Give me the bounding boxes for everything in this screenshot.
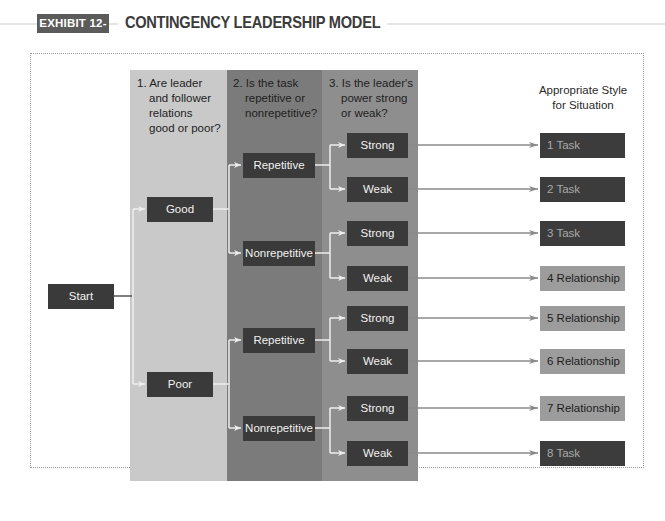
result-5-relationship: 5 Relationship bbox=[540, 306, 625, 331]
result-2-task: 2 Task bbox=[540, 177, 625, 202]
question-line: 2. Is the task bbox=[233, 76, 317, 91]
question-power: 3. Is the leader's power strong or weak? bbox=[329, 76, 413, 121]
node-repetitive: Repetitive bbox=[243, 328, 315, 353]
question-line: nonrepetitive? bbox=[233, 106, 317, 121]
question-line: good or poor? bbox=[137, 121, 221, 136]
question-task: 2. Is the task repetitive or nonrepetiti… bbox=[233, 76, 317, 121]
exhibit-badge: EXHIBIT 12-3 bbox=[37, 14, 109, 33]
result-heading: Appropriate Style for Situation bbox=[528, 83, 638, 113]
result-8-task: 8 Task bbox=[540, 441, 625, 466]
result-heading-line: Appropriate Style bbox=[528, 83, 638, 98]
question-line: and follower bbox=[137, 91, 221, 106]
node-nonrepetitive: Nonrepetitive bbox=[243, 416, 315, 441]
node-good: Good bbox=[147, 197, 213, 222]
node-nonrepetitive: Nonrepetitive bbox=[243, 241, 315, 266]
node-strong: Strong bbox=[347, 396, 408, 421]
result-heading-line: for Situation bbox=[528, 98, 638, 113]
question-relations: 1. Are leader and follower relations goo… bbox=[137, 76, 221, 136]
result-6-relationship: 6 Relationship bbox=[540, 349, 625, 374]
node-strong: Strong bbox=[347, 306, 408, 331]
question-line: power strong bbox=[329, 91, 413, 106]
node-strong: Strong bbox=[347, 221, 408, 246]
page-title: CONTINGENCY LEADERSHIP MODEL bbox=[118, 11, 387, 35]
question-line: 1. Are leader bbox=[137, 76, 221, 91]
node-weak: Weak bbox=[347, 349, 408, 374]
node-poor: Poor bbox=[147, 372, 213, 397]
question-line: relations bbox=[137, 106, 221, 121]
result-3-task: 3 Task bbox=[540, 221, 625, 246]
question-line: 3. Is the leader's bbox=[329, 76, 413, 91]
node-repetitive: Repetitive bbox=[243, 153, 315, 178]
start-node: Start bbox=[48, 284, 114, 309]
result-7-relationship: 7 Relationship bbox=[540, 396, 625, 421]
node-weak: Weak bbox=[347, 177, 408, 202]
result-4-relationship: 4 Relationship bbox=[540, 266, 625, 291]
node-strong: Strong bbox=[347, 133, 408, 158]
question-line: repetitive or bbox=[233, 91, 317, 106]
node-weak: Weak bbox=[347, 266, 408, 291]
question-line: or weak? bbox=[329, 106, 413, 121]
node-weak: Weak bbox=[347, 441, 408, 466]
result-1-task: 1 Task bbox=[540, 133, 625, 158]
